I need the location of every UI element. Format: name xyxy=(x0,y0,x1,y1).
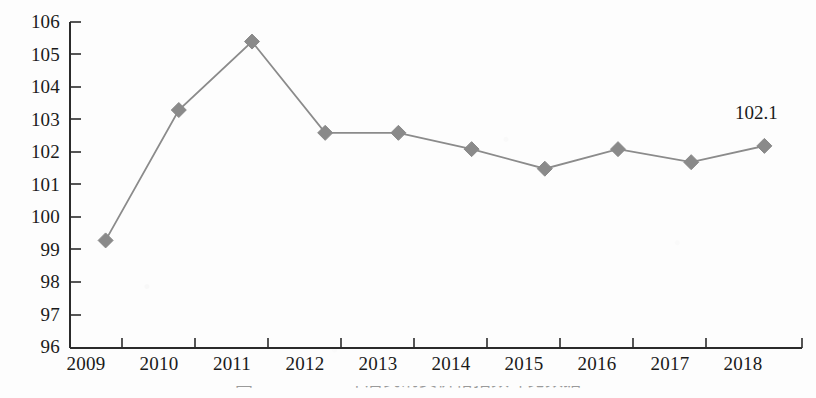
data-point-2018 xyxy=(757,138,772,153)
series-line-path xyxy=(106,42,765,241)
x-tick-label-2011: 2011 xyxy=(195,354,269,373)
data-point-2009 xyxy=(98,233,113,248)
x-tick-label-2012: 2012 xyxy=(268,354,342,373)
y-tick-label: 106 xyxy=(8,12,60,31)
x-tick-label-2015: 2015 xyxy=(487,354,561,373)
y-tick-label: 100 xyxy=(8,207,60,226)
x-tick-label-2014: 2014 xyxy=(414,354,488,373)
y-axis-ticks xyxy=(70,22,81,315)
y-tick-label: 98 xyxy=(8,272,60,291)
x-tick-label-2013: 2013 xyxy=(341,354,415,373)
data-point-2017 xyxy=(684,155,699,170)
y-tick-label: 105 xyxy=(8,45,60,64)
y-tick-label: 99 xyxy=(8,240,60,259)
figure-caption-text: 图 2009—2018年居民消费价格指数环比数据 xyxy=(235,386,582,389)
data-point-2015 xyxy=(537,161,552,176)
y-tick-label: 102 xyxy=(8,142,60,161)
data-point-2016 xyxy=(611,142,626,157)
x-tick-label-2009: 2009 xyxy=(49,354,123,373)
data-point-2013 xyxy=(391,125,406,140)
y-tick-label: 104 xyxy=(8,77,60,96)
y-tick-label: 101 xyxy=(8,175,60,194)
data-label-2018: 102.1 xyxy=(735,103,778,122)
x-tick-label-2010: 2010 xyxy=(122,354,196,373)
figure-chart-container: 106 105 104 103 102 101 100 99 98 97 96 … xyxy=(0,0,816,398)
y-tick-label: 103 xyxy=(8,110,60,129)
line-chart-plot xyxy=(0,0,816,398)
figure-caption-clipped: 图 2009—2018年居民消费价格指数环比数据 xyxy=(0,386,816,398)
y-tick-label: 97 xyxy=(8,305,60,324)
x-axis-ticks xyxy=(122,338,802,348)
data-point-2014 xyxy=(464,142,479,157)
x-tick-label-2016: 2016 xyxy=(560,354,634,373)
x-tick-label-2017: 2017 xyxy=(633,354,707,373)
x-tick-label-2018: 2018 xyxy=(706,354,780,373)
